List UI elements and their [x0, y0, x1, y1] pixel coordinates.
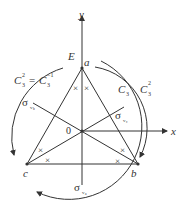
angle-marker: × [73, 83, 78, 93]
vertex-b-dot [136, 162, 139, 165]
x-axis-label: x [170, 125, 176, 137]
c3-label: C 3 [118, 83, 129, 97]
svg-text:c: c [126, 120, 128, 124]
svg-text:C: C [39, 74, 47, 86]
svg-text:3: 3 [22, 82, 25, 88]
svg-text:−1: −1 [47, 72, 53, 78]
origin-label: 0 [66, 125, 71, 136]
svg-text:3: 3 [126, 91, 129, 97]
vertex-c-dot [25, 162, 28, 165]
svg-text:3: 3 [47, 82, 50, 88]
svg-text:σ: σ [115, 109, 121, 121]
svg-text:C: C [140, 83, 148, 95]
svg-text:C: C [14, 74, 22, 86]
svg-text:2: 2 [148, 80, 151, 86]
mirror-line-vc [27, 107, 124, 164]
svg-text:3: 3 [148, 91, 151, 97]
c3v-diagram: × × × × × × y x 0 a b c E C 3 C 2 3 C 2 … [0, 0, 187, 216]
svg-text:b: b [33, 107, 35, 111]
vertex-b-label: b [131, 167, 137, 179]
angle-marker: × [120, 145, 125, 155]
svg-text:σ: σ [22, 96, 28, 108]
origin-dot [80, 129, 83, 132]
svg-text:=: = [29, 74, 35, 86]
vertex-a-label: a [84, 56, 90, 68]
c3-squared-label: C 2 3 [140, 80, 151, 97]
diagram-canvas: × × × × × × y x 0 a b c E C 3 C 2 3 C 2 … [0, 0, 187, 216]
angle-marker: × [84, 83, 89, 93]
vertex-c-label: c [23, 167, 28, 179]
y-axis-label: y [78, 8, 84, 20]
angle-marker: × [45, 155, 50, 165]
identity-label: E [67, 50, 75, 62]
svg-text:C: C [118, 83, 126, 95]
svg-text:σ: σ [74, 181, 80, 193]
svg-text:a: a [85, 192, 87, 196]
sigma-vc-label: σ v c [115, 109, 128, 124]
angle-marker: × [38, 145, 43, 155]
c3-inverse-label: C 2 3 = C −1 3 [14, 72, 53, 88]
angle-marker: × [115, 156, 120, 166]
svg-text:2: 2 [22, 72, 25, 78]
sigma-va-label: σ v a [74, 181, 87, 196]
